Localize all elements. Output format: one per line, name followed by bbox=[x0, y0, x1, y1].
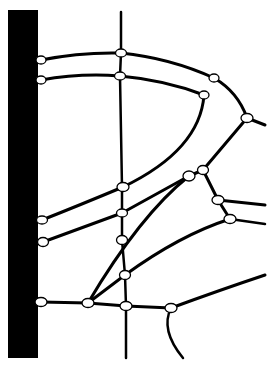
lower-branch bbox=[88, 219, 230, 303]
node-n11 bbox=[212, 196, 224, 205]
junction-nodes bbox=[35, 49, 253, 313]
node-n17 bbox=[120, 271, 131, 280]
network-diagram bbox=[0, 0, 275, 370]
node-n5 bbox=[209, 74, 219, 82]
node-n21 bbox=[165, 304, 177, 313]
node-n7 bbox=[241, 114, 253, 123]
outer-descending-line bbox=[189, 118, 247, 176]
node-n18 bbox=[35, 298, 47, 307]
node-n13 bbox=[117, 209, 128, 217]
node-n6 bbox=[199, 91, 209, 99]
node-n2 bbox=[36, 76, 46, 84]
bottom-hook bbox=[167, 308, 183, 358]
node-n4 bbox=[115, 72, 126, 80]
node-n15 bbox=[37, 216, 48, 224]
node-n16 bbox=[38, 238, 49, 247]
node-n3 bbox=[116, 49, 127, 57]
upper-outer-arc bbox=[41, 53, 265, 125]
node-n10 bbox=[198, 166, 209, 175]
anchor-bar bbox=[8, 10, 38, 358]
node-n19 bbox=[82, 299, 94, 308]
node-n12 bbox=[224, 215, 236, 224]
bottom-line bbox=[41, 275, 265, 308]
right-stub-upper bbox=[218, 200, 265, 205]
node-n9 bbox=[183, 171, 195, 181]
middle-branch-upper bbox=[43, 176, 189, 242]
node-n1 bbox=[36, 56, 46, 64]
node-n14 bbox=[117, 236, 128, 245]
node-n8 bbox=[117, 183, 129, 192]
right-connector bbox=[203, 170, 230, 219]
node-n20 bbox=[120, 302, 132, 311]
